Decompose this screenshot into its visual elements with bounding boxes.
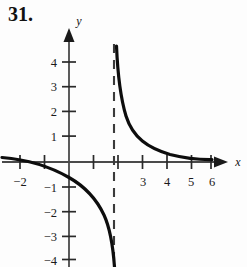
x-axis-label: x	[234, 155, 241, 169]
x-tick-label-5: 5	[188, 175, 194, 189]
y-tick-label-2: 2	[51, 105, 57, 119]
y-tick-label--3: −3	[44, 230, 57, 244]
x-tick-label-4: 4	[164, 175, 171, 189]
graph-plot: y x 4 3 2 1 −1 −2 −3 −4 −2 3 4 5 6	[0, 0, 247, 267]
curve-right-branch	[117, 46, 213, 160]
y-axis-arrow-icon	[64, 28, 75, 42]
y-tick-label--4: −4	[44, 254, 58, 267]
figure-container: 31.	[0, 0, 247, 267]
curve-left-branch	[2, 158, 115, 267]
x-tick-label-3: 3	[140, 175, 146, 189]
y-axis-label: y	[75, 14, 82, 28]
y-tick-label--2: −2	[44, 206, 57, 220]
y-tick-label-3: 3	[51, 80, 57, 94]
y-tick-label-1: 1	[51, 130, 57, 144]
x-axis-arrow-icon	[214, 157, 228, 168]
y-tick-label-4: 4	[51, 56, 58, 70]
y-tick-label--1: −1	[44, 181, 57, 195]
x-tick-label--2: −2	[13, 175, 26, 189]
x-tick-label-6: 6	[209, 175, 215, 189]
